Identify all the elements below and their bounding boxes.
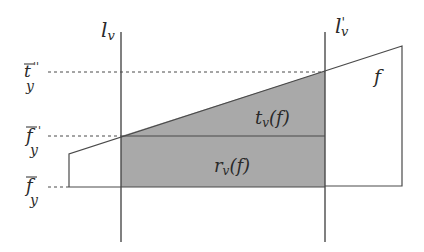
label-f-bar-prime-y: f ' y <box>24 124 41 158</box>
svg-text:y: y <box>29 142 39 158</box>
label-f-bar-y: f y <box>24 175 39 208</box>
label-lv: lv <box>101 18 115 43</box>
label-function-f: f <box>372 65 384 87</box>
diagram-canvas: lv l'v t '' y f ' y f y tv(f) rv(f) f <box>0 0 424 252</box>
label-rectangle-rv: rv(f) <box>214 155 250 178</box>
svg-text:'': '' <box>33 60 39 73</box>
svg-text:y: y <box>29 192 39 208</box>
label-triangle-tv: tv(f) <box>255 107 290 130</box>
label-lv-prime: l'v <box>335 14 349 39</box>
rectangle-region <box>121 136 325 187</box>
svg-text:y: y <box>25 78 35 94</box>
svg-text:': ' <box>38 124 41 137</box>
label-t-bar-double-prime-y: t '' y <box>24 60 39 94</box>
